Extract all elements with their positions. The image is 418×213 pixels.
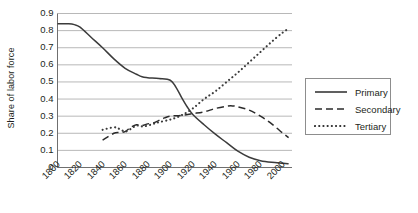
y-tick-label: 0.6 [26, 59, 54, 69]
y-tick-label: 0.8 [26, 25, 54, 35]
legend-line-sample-icon [314, 104, 348, 114]
series-line-secondary [103, 106, 289, 140]
legend-item-primary[interactable]: Primary [314, 85, 388, 99]
y-tick-label: 0.2 [26, 128, 54, 138]
y-tick-label: 0.9 [26, 8, 54, 18]
y-tick-label: 0.7 [26, 42, 54, 52]
legend-line-sample-icon [314, 121, 348, 131]
legend-item-label: Primary [355, 87, 388, 98]
labor-force-share-chart: Share of labor force 00.10.20.30.40.50.6… [0, 0, 418, 213]
legend-line-sample-icon [314, 87, 348, 97]
legend-item-tertiary[interactable]: Tertiary [314, 119, 386, 133]
y-tick-label: 0.3 [26, 111, 54, 121]
y-axis-title-label: Share of labor force [6, 47, 16, 128]
y-tick-label: 0.1 [26, 145, 54, 155]
chart-legend: PrimarySecondaryTertiary [305, 78, 391, 135]
legend-item-label: Secondary [355, 104, 400, 115]
gridlines [58, 14, 293, 168]
axis-lines [58, 14, 293, 168]
legend-item-label: Tertiary [355, 121, 386, 132]
legend-item-secondary[interactable]: Secondary [314, 102, 400, 116]
series-line-primary [58, 24, 289, 164]
y-tick-label: 0.4 [26, 94, 54, 104]
data-series [58, 24, 289, 164]
y-tick-label: 0.5 [26, 76, 54, 86]
y-axis-title: Share of labor force [0, 0, 22, 175]
